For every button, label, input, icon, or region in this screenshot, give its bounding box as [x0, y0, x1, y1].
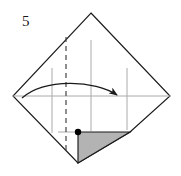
reference-point-dot — [75, 129, 81, 135]
origami-diagram: 5 — [0, 0, 181, 176]
shaded-flap-triangle — [78, 132, 130, 163]
origami-figure-svg — [0, 0, 181, 176]
